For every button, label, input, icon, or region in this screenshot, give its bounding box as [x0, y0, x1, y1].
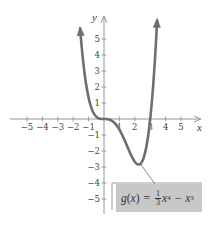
y-tick-label: −5 — [87, 194, 100, 204]
x-axis-label: x — [196, 121, 202, 133]
x-tick-label: 5 — [178, 122, 183, 132]
y-tick-label: −4 — [87, 178, 100, 188]
y-tick-label: 1 — [95, 98, 100, 108]
x-tick-label: −5 — [21, 122, 34, 132]
y-tick-label: −3 — [87, 162, 100, 172]
exponent-4: 4 — [167, 194, 171, 202]
fraction-denominator: 3 — [156, 199, 160, 207]
minus-sign: − — [175, 192, 182, 204]
function-graph: −5−4−3−2−11234554321−1−2−3−4−5 x y g(x) … — [0, 0, 216, 225]
y-tick-label: −2 — [87, 146, 100, 156]
exponent-3: 3 — [190, 194, 194, 202]
curve-g — [80, 20, 157, 164]
fraction: 1 3 — [155, 190, 161, 207]
x-tick-label: −3 — [52, 122, 65, 132]
y-tick-label: −1 — [87, 130, 100, 140]
equals-sign: = — [144, 192, 151, 204]
x-tick-label: 4 — [163, 122, 168, 132]
right-arrow-icon — [153, 18, 160, 27]
y-tick-label: 4 — [95, 50, 100, 60]
left-arrow-icon — [77, 27, 84, 36]
y-tick-label: 3 — [95, 66, 100, 76]
y-axis-label: y — [91, 11, 97, 23]
x-tick-label: −2 — [67, 122, 80, 132]
curve-g — [77, 18, 160, 164]
x-tick-label: −4 — [36, 122, 49, 132]
y-tick-label: 5 — [95, 34, 100, 44]
x-tick-label: 2 — [132, 122, 137, 132]
y-tick-label: 2 — [95, 82, 100, 92]
function-label: g(x) = 1 3 x4 − x3 — [121, 185, 194, 211]
callout-leader-line — [141, 164, 156, 184]
